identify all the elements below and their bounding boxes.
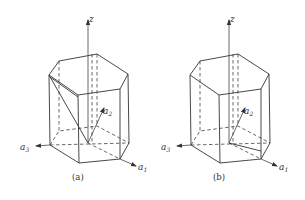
a2-axis [229, 108, 245, 143]
a3-label: a3 [161, 142, 170, 153]
a2-label: a2 [244, 106, 253, 117]
diagonal-line [49, 75, 88, 143]
panel-a: z a2 a3 a1 (a) [20, 14, 147, 182]
panel-b: z a2 a3 a1 (b) [161, 14, 288, 182]
a1-label: a1 [138, 162, 147, 173]
top-hexagon [190, 54, 269, 95]
a2-label: a2 [103, 106, 112, 117]
a2-axis [88, 108, 104, 143]
z-label: z [229, 14, 235, 24]
caption-b: (b) [213, 172, 225, 182]
a1-label: a1 [279, 162, 288, 173]
z-label: z [88, 14, 94, 24]
a1-axis [120, 159, 136, 166]
hexagonal-lattice-figure: z a2 a3 a1 (a) z a2 a3 a1 (b) [0, 0, 305, 200]
top-hexagon [49, 54, 128, 95]
a3-axis [177, 145, 191, 146]
hidden-edges [50, 54, 129, 159]
caption-a: (a) [72, 172, 84, 182]
a1-axis [261, 159, 277, 166]
origin-right-line [229, 143, 261, 151]
a3-label: a3 [20, 142, 29, 153]
a3-axis [36, 145, 50, 146]
